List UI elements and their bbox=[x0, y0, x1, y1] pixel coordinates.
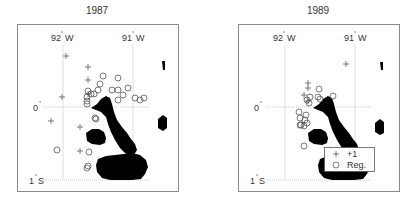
svg-text:W: W bbox=[287, 33, 296, 43]
svg-text:°: ° bbox=[39, 100, 41, 106]
svg-text:92: 92 bbox=[273, 33, 283, 43]
legend-plus-label: +1 bbox=[347, 149, 357, 159]
svg-text:°: ° bbox=[260, 100, 262, 106]
svg-text:W: W bbox=[358, 33, 367, 43]
svg-text:°: ° bbox=[256, 173, 258, 179]
svg-text:92: 92 bbox=[51, 33, 61, 43]
map-plot-1987: 92 ° W 91 ° W 0 ° 1 ° S bbox=[0, 0, 210, 203]
svg-text:°: ° bbox=[132, 30, 134, 36]
svg-text:°: ° bbox=[283, 30, 285, 36]
svg-text:°: ° bbox=[35, 173, 37, 179]
map-plot-1989: 92 ° W 91 ° W 0 ° 1 ° S bbox=[210, 0, 419, 203]
svg-text:91: 91 bbox=[344, 33, 354, 43]
svg-text:91: 91 bbox=[122, 33, 132, 43]
isabela-south bbox=[96, 153, 148, 180]
panel-1989: 1989 92 ° W 91 ° W 0 ° 1 ° S bbox=[210, 0, 419, 203]
svg-text:S: S bbox=[259, 176, 265, 186]
svg-text:W: W bbox=[136, 33, 145, 43]
svg-text:0: 0 bbox=[254, 103, 259, 113]
svg-text:S: S bbox=[38, 176, 44, 186]
svg-text:1: 1 bbox=[29, 176, 34, 186]
panel-1987: 1987 92 ° W 91 ° W 0 ° 1 ° S bbox=[0, 0, 210, 203]
svg-text:°: ° bbox=[61, 30, 63, 36]
svg-text:°: ° bbox=[354, 30, 356, 36]
legend: +1 Reg. bbox=[325, 148, 375, 172]
legend-circle-label: Reg. bbox=[347, 160, 366, 170]
svg-text:1: 1 bbox=[250, 176, 255, 186]
svg-text:0: 0 bbox=[33, 103, 38, 113]
svg-text:W: W bbox=[65, 33, 74, 43]
